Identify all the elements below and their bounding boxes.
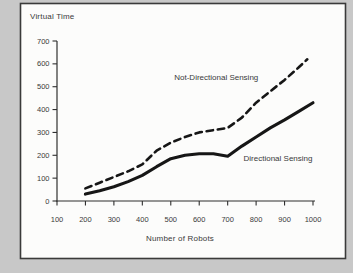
y-axis-title: Virtual Time	[30, 12, 75, 21]
chart-canvas: 0100200300400500600700100200300400500600…	[0, 0, 353, 273]
figure-page: 0100200300400500600700100200300400500600…	[0, 0, 353, 273]
series-label: Directional Sensing	[244, 154, 313, 163]
series-label: Not-Directional Sensing	[174, 73, 258, 82]
x-tick-label: 300	[108, 215, 121, 224]
x-tick-label: 800	[250, 215, 263, 224]
y-tick-label: 400	[37, 105, 50, 114]
x-tick-label: 1000	[305, 215, 322, 224]
x-tick-label: 500	[165, 215, 178, 224]
y-tick-label: 500	[37, 82, 50, 91]
x-axis-title: Number of Robots	[134, 234, 226, 243]
x-tick-label: 400	[136, 215, 149, 224]
figure-frame	[21, 4, 346, 259]
y-tick-label: 700	[37, 37, 50, 46]
x-tick-label: 200	[79, 215, 92, 224]
y-tick-label: 600	[37, 59, 50, 68]
y-tick-label: 200	[37, 151, 50, 160]
y-tick-label: 100	[37, 174, 50, 183]
x-tick-label: 700	[221, 215, 234, 224]
y-tick-label: 300	[37, 128, 50, 137]
x-tick-label: 900	[278, 215, 291, 224]
x-tick-label: 100	[51, 215, 64, 224]
x-tick-label: 600	[193, 215, 206, 224]
y-tick-label: 0	[45, 197, 49, 206]
